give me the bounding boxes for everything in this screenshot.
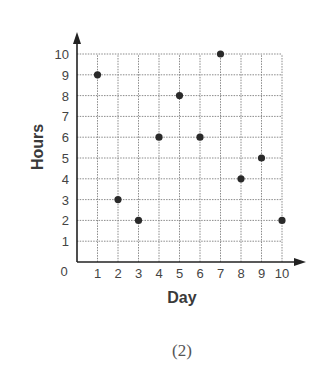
x-tick-label: 9 [258, 266, 265, 281]
y-tick-label: 1 [62, 234, 69, 249]
data-point [135, 217, 142, 224]
data-point [114, 196, 121, 203]
tick-labels: 1234567891012345678910 [55, 47, 290, 281]
x-tick-label: 7 [217, 266, 224, 281]
y-tick-label: 3 [62, 193, 69, 208]
x-axis-title: Day [167, 289, 196, 306]
x-tick-label: 4 [155, 266, 162, 281]
data-point [258, 154, 265, 161]
x-tick-label: 10 [275, 266, 289, 281]
y-tick-label: 4 [62, 172, 69, 187]
x-tick-label: 2 [114, 266, 121, 281]
x-tick-label: 1 [94, 266, 101, 281]
y-tick-label: 6 [62, 130, 69, 145]
x-tick-label: 6 [196, 266, 203, 281]
scatter-chart: 1234567891012345678910 0 Hours Day (2) [0, 0, 321, 378]
data-point [217, 50, 224, 57]
data-point [278, 217, 285, 224]
y-axis-title: Hours [29, 124, 46, 170]
data-point [155, 134, 162, 141]
y-tick-label: 7 [62, 109, 69, 124]
x-axis-arrow-icon [294, 258, 306, 266]
origin-label: 0 [60, 264, 67, 279]
y-axis-arrow-icon [73, 32, 81, 44]
data-point [196, 134, 203, 141]
x-tick-label: 8 [237, 266, 244, 281]
grid-lines [77, 54, 282, 262]
data-point [237, 175, 244, 182]
x-tick-label: 5 [176, 266, 183, 281]
y-tick-label: 8 [62, 89, 69, 104]
y-tick-label: 10 [55, 47, 69, 62]
y-tick-label: 2 [62, 213, 69, 228]
x-tick-label: 3 [135, 266, 142, 281]
figure-caption: (2) [172, 341, 192, 360]
data-point [94, 71, 101, 78]
y-tick-label: 9 [62, 68, 69, 83]
data-point [176, 92, 183, 99]
y-tick-label: 5 [62, 151, 69, 166]
data-points [94, 50, 286, 224]
axes [73, 32, 306, 266]
